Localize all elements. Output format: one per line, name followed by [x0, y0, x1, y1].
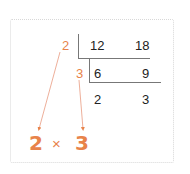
multiply-sign: ×	[52, 136, 61, 151]
result-factor-1: 2	[29, 133, 43, 153]
result-factor-2: 3	[75, 133, 89, 153]
